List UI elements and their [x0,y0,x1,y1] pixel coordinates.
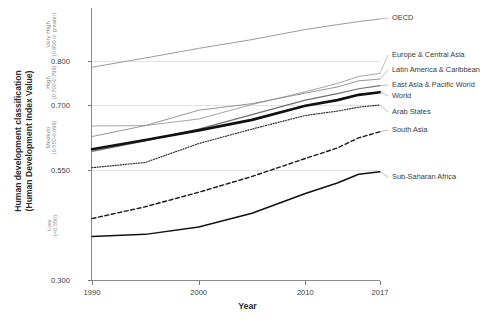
x-tick-mark [380,281,381,285]
series-label: OECD [392,13,413,22]
x-tick-mark [199,281,200,285]
x-tick-mark [92,281,93,285]
y-tick-label: 0.700 [30,101,70,110]
x-axis-title: Year [0,301,495,311]
series-line-6 [92,132,380,219]
y-axis-title-line1: Human development classification [13,41,24,241]
series-label: Arab States [392,107,431,116]
y-axis-tick-labels: 0.3000.5500.7000.800 [24,0,70,321]
x-tick-mark [305,281,306,285]
y-tick-mark [88,61,92,62]
series-line-4 [92,92,380,149]
series-label: Latin America & Caribbean [392,65,480,74]
series-line-5 [92,105,380,168]
series-label: Europe & Central Asia [392,50,465,59]
series-label: South Asia [392,125,427,134]
chart-root: Human development classification (Human … [0,0,495,321]
series-lines [92,8,380,280]
series-label: Sub-Saharan Africa [392,172,456,181]
y-tick-label: 0.550 [30,166,70,175]
x-tick-label: 2000 [190,288,207,297]
x-axis-line [91,280,380,281]
y-tick-label: 0.300 [30,276,70,285]
series-label: World [392,91,411,100]
y-tick-label: 0.800 [30,57,70,66]
y-tick-mark [88,170,92,171]
y-tick-mark [88,105,92,106]
series-line-2 [92,79,380,136]
x-tick-label: 1990 [84,288,101,297]
series-line-0 [92,19,380,67]
x-tick-label: 2017 [372,288,389,297]
y-tick-mark [88,280,92,281]
x-tick-label: 2010 [297,288,314,297]
plot-area [92,8,380,280]
series-label: East Asia & Pacific World [392,80,475,89]
